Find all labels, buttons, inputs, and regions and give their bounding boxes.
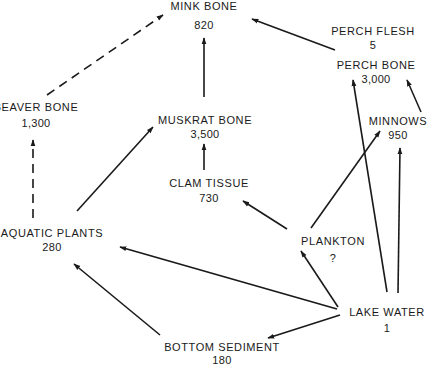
arrow-perch-flesh-to-mink [252,19,335,50]
food-web-diagram: MINK BONE820PERCH FLESH5PERCH BONE3,000B… [0,0,428,366]
arrow-beaver-to-mink [47,15,163,95]
node-value: 3,000 [361,73,390,85]
node-value: 1 [384,322,390,334]
node-label: MINNOWS [369,115,428,127]
node-label: MUSKRAT BONE [158,114,252,126]
node-value: 5 [370,39,376,51]
node-muskrat: MUSKRAT BONE3,500 [158,114,252,140]
node-aquatic-plants: AQUATIC PLANTS280 [1,227,103,253]
node-value: 950 [388,129,407,141]
arrow-minnows-to-perch-bone [407,80,421,112]
node-value: 820 [194,19,213,31]
node-perch-bone: PERCH BONE3,000 [337,59,416,85]
node-value: 1,300 [21,117,50,129]
node-plankton: PLANKTON? [301,235,365,264]
node-mink: MINK BONE820 [170,0,237,31]
node-value: 730 [199,192,218,204]
arrow-aquatic-plants-to-muskrat [77,127,153,211]
node-value: 280 [42,241,61,253]
node-beaver: BEAVER BONE1,300 [0,101,78,129]
arrow-lake-water-to-perch-bone [353,80,387,292]
node-label: PERCH FLESH [331,25,415,37]
node-value: ? [330,252,336,264]
node-minnows: MINNOWS950 [369,115,428,141]
arrow-bottom-sediment-to-aquatic-plants [74,264,160,335]
node-label: MINK BONE [170,0,237,12]
node-label: BEAVER BONE [0,101,78,113]
arrow-lake-water-to-bottom-sediment [268,315,340,338]
node-value: 3,500 [190,128,219,140]
node-bottom-sediment: BOTTOM SEDIMENT180 [164,341,280,366]
arrow-plankton-to-clam [243,201,287,229]
node-label: PLANKTON [301,235,365,247]
node-lake-water: LAKE WATER1 [349,306,425,334]
node-perch-flesh: PERCH FLESH5 [331,25,415,51]
node-label: BOTTOM SEDIMENT [164,341,280,353]
node-clam: CLAM TISSUE730 [169,177,249,204]
node-label: LAKE WATER [349,306,425,318]
node-label: PERCH BONE [337,59,416,71]
arrow-lake-water-to-minnows [398,148,400,293]
node-value: 180 [212,354,231,366]
nodes-layer: MINK BONE820PERCH FLESH5PERCH BONE3,000B… [0,0,427,366]
node-label: AQUATIC PLANTS [1,227,103,239]
node-label: CLAM TISSUE [169,177,249,189]
